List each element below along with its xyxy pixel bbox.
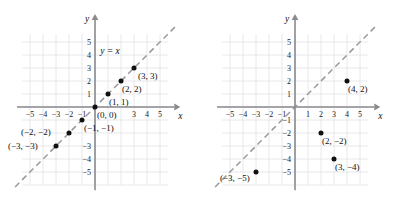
x-axis-label: x: [377, 111, 383, 121]
data-point-label: (0, 0): [97, 110, 117, 120]
x-tick-label: −1: [78, 110, 87, 119]
x-tick-label: −2: [65, 110, 74, 119]
data-point-label: (2, 2): [122, 84, 142, 94]
x-tick-label: 3: [332, 110, 336, 119]
data-point-marker: [67, 131, 72, 136]
data-point-marker: [345, 79, 350, 84]
data-point-marker: [119, 79, 124, 84]
x-tick-label: −5: [26, 110, 35, 119]
data-point-marker: [80, 118, 85, 123]
x-tick-label: 2: [319, 110, 323, 119]
data-point-marker: [132, 66, 137, 71]
y-tick-label: 5: [87, 38, 91, 47]
y-tick-label: −5: [82, 168, 91, 177]
x-tick-label: 1: [306, 110, 310, 119]
y-tick-label: −3: [282, 142, 291, 151]
y-tick-label: 3: [87, 64, 91, 73]
y-axis-label: y: [284, 14, 290, 24]
y-axis-arrowhead: [92, 14, 99, 20]
x-tick-label: −3: [52, 110, 61, 119]
data-point-group: (−2, −2): [21, 127, 72, 137]
y-axis-arrowhead: [292, 14, 299, 20]
y-axis-label: y: [84, 14, 90, 24]
y-tick-label: −3: [82, 142, 91, 151]
data-point-label: (−3, −3): [8, 141, 38, 151]
y-tick-label: −5: [282, 168, 291, 177]
y-tick-label: −4: [282, 155, 291, 164]
coordinate-plane-figure: xy−5−4−3−2−134554321−3−4−5y = x(3, 3)(2,…: [0, 0, 399, 204]
equation-annotation: y = x: [99, 46, 120, 56]
y-tick-label: −4: [82, 155, 91, 164]
graph-panel-left: xy−5−4−3−2−134554321−3−4−5y = x(3, 3)(2,…: [0, 0, 199, 204]
data-point-label: (−2, −2): [21, 127, 51, 137]
x-tick-label: 4: [345, 110, 349, 119]
graph-svg-right: xy−5−4−3−2−11234554321−1−2−3−4−5(4, 2)(2…: [199, 0, 399, 204]
x-tick-label: 3: [132, 110, 136, 119]
y-tick-label: 1: [87, 90, 91, 99]
data-point-label: (4, 2): [348, 84, 368, 94]
y-tick-label: 2: [87, 77, 91, 86]
x-axis-arrowhead: [174, 104, 180, 111]
x-tick-label: 5: [358, 110, 362, 119]
y-tick-label: −1: [282, 116, 291, 125]
graph-panel-right: xy−5−4−3−2−11234554321−1−2−3−4−5(4, 2)(2…: [199, 0, 399, 204]
x-tick-label: −3: [252, 110, 261, 119]
y-tick-label: 5: [287, 38, 291, 47]
data-point-marker: [332, 157, 337, 162]
x-tick-label: −5: [226, 110, 235, 119]
data-point-marker: [106, 92, 111, 97]
data-point-label: (2, −2): [322, 136, 347, 146]
y-tick-label: 4: [87, 51, 91, 60]
data-point-marker: [319, 131, 324, 136]
y-tick-label: 4: [287, 51, 291, 60]
y-tick-label: −2: [282, 129, 291, 138]
data-point-label: (−3, −5): [220, 173, 250, 183]
x-axis-label: x: [177, 111, 183, 121]
data-point-marker: [54, 144, 59, 149]
data-point-label: (−1, −1): [84, 123, 114, 133]
data-point-label: (1, 1): [109, 97, 129, 107]
data-point-label: (3, 3): [138, 71, 158, 81]
data-point-label: (3, −4): [335, 162, 360, 172]
y-tick-label: 2: [287, 77, 291, 86]
y-tick-label: 3: [287, 64, 291, 73]
x-tick-label: −4: [239, 110, 248, 119]
data-point-marker: [254, 170, 259, 175]
y-tick-label: 1: [287, 90, 291, 99]
x-tick-label: 4: [145, 110, 149, 119]
data-point-group: (−3, −5): [220, 170, 259, 184]
x-tick-label: 5: [158, 110, 162, 119]
data-point-marker: [93, 105, 98, 110]
x-tick-label: −2: [265, 110, 274, 119]
axes-group: [17, 14, 180, 190]
x-axis-arrowhead: [374, 104, 380, 111]
x-tick-label: −4: [39, 110, 48, 119]
graph-svg-left: xy−5−4−3−2−134554321−3−4−5y = x(3, 3)(2,…: [0, 0, 199, 204]
